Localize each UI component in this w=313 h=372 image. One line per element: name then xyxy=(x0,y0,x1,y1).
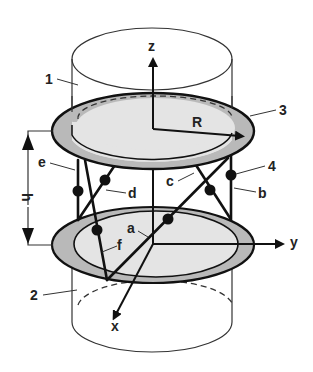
joint-b xyxy=(226,170,237,181)
radius-label: R xyxy=(192,114,202,130)
z-axis-label: z xyxy=(148,38,155,54)
label-1: 1 xyxy=(45,71,53,87)
joint-a xyxy=(163,214,174,225)
label-leg-c: c xyxy=(166,173,174,189)
label-leg-f: f xyxy=(117,237,122,253)
label-4: 4 xyxy=(268,158,276,174)
label-leg-a: a xyxy=(127,220,135,236)
height-dimension: h xyxy=(19,131,53,245)
label-3: 3 xyxy=(279,102,287,118)
label-leg-b: b xyxy=(258,185,267,201)
joint-f xyxy=(92,225,103,236)
label-2: 2 xyxy=(30,287,38,303)
y-axis-label: y xyxy=(290,234,298,250)
height-label: h xyxy=(19,193,35,202)
label-leg-e: e xyxy=(38,154,46,170)
x-axis-label: x xyxy=(111,318,119,334)
joint-c xyxy=(205,185,216,196)
platform-diagram: z R y x h 1 2 3 4 e d c b a f xyxy=(0,0,313,372)
joint-e xyxy=(73,186,84,197)
label-leg-d: d xyxy=(128,185,137,201)
joint-d xyxy=(100,175,111,186)
